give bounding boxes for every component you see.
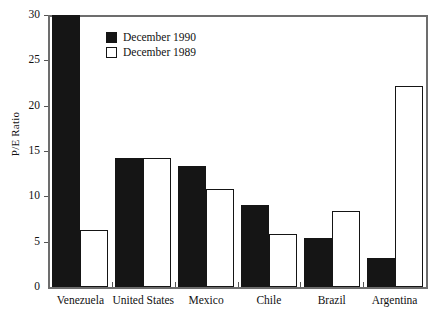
- bar-chile-december-1989: [269, 234, 297, 287]
- x-tick-mark-2: [175, 282, 176, 287]
- legend-label-1: December 1989: [123, 45, 196, 60]
- x-tick-mark-4: [300, 282, 301, 287]
- x-tick-mark-3: [238, 282, 239, 287]
- bar-argentina-december-1990: [367, 258, 395, 287]
- bar-mexico-december-1990: [178, 166, 206, 287]
- bar-brazil-december-1990: [304, 238, 332, 287]
- legend-entry-0: December 1990: [106, 30, 196, 45]
- x-label-argentina: Argentina: [335, 294, 445, 306]
- bar-brazil-december-1989: [332, 211, 360, 287]
- y-tick-label-30: 30: [18, 9, 40, 21]
- bar-venezuela-december-1990: [52, 15, 80, 287]
- plot-frame-right: [426, 15, 428, 288]
- y-tick-label-20: 20: [18, 100, 40, 112]
- legend-hollow-square-icon: [106, 47, 117, 58]
- y-tick-label-15: 15: [18, 145, 40, 157]
- legend-entry-1: December 1989: [106, 45, 196, 60]
- legend-filled-square-icon: [106, 32, 117, 43]
- x-tick-mark-5: [363, 282, 364, 287]
- bar-united-states-december-1989: [143, 158, 171, 287]
- plot-frame-bottom: [48, 287, 428, 289]
- pe-ratio-bar-chart: P/E Ratio 051015202530 VenezuelaUnited S…: [0, 0, 445, 323]
- bar-venezuela-december-1989: [80, 230, 108, 287]
- y-tick-label-0: 0: [18, 281, 40, 293]
- legend-label-0: December 1990: [123, 30, 196, 45]
- bar-mexico-december-1989: [206, 189, 234, 287]
- bar-chile-december-1990: [241, 205, 269, 288]
- x-tick-mark-1: [112, 282, 113, 287]
- y-tick-label-25: 25: [18, 54, 40, 66]
- bar-united-states-december-1990: [115, 158, 143, 287]
- y-tick-label-10: 10: [18, 190, 40, 202]
- chart-legend: December 1990December 1989: [106, 30, 196, 60]
- y-tick-label-5: 5: [18, 236, 40, 248]
- bar-argentina-december-1989: [395, 86, 423, 287]
